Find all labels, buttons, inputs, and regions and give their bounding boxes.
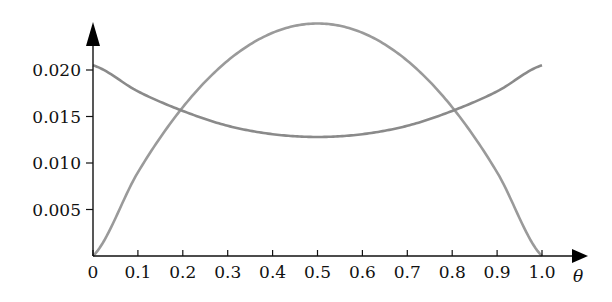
x-tick-label: 0.4 [259,262,286,282]
x-tick-label: 0.2 [169,262,196,282]
series-line-parabola [93,24,542,257]
x-axis-label: θ [573,266,583,286]
y-axis-arrow-icon [86,22,100,46]
chart: 00.10.20.30.40.50.60.70.80.91.00.0050.01… [0,0,612,302]
x-tick-label: 0.8 [439,262,466,282]
x-tick-label: 0.3 [214,262,241,282]
y-tick-label: 0.005 [32,200,81,220]
y-tick-label: 0.015 [32,107,81,127]
x-tick-label: 0.1 [124,262,151,282]
x-tick-label: 0.9 [484,262,511,282]
x-tick-label: 0.5 [304,262,331,282]
x-tick-label: 0 [88,262,99,282]
x-tick-label: 1.0 [528,262,555,282]
x-axis-arrow-icon [572,249,588,263]
y-tick-label: 0.020 [32,60,81,80]
x-tick-label: 0.6 [349,262,376,282]
x-tick-label: 0.7 [394,262,421,282]
y-tick-label: 0.010 [32,153,81,173]
series-line-u-curve [93,65,542,137]
